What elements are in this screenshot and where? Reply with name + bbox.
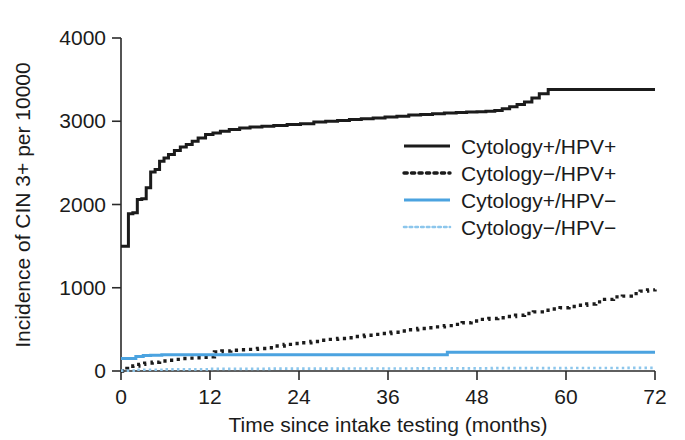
chart-legend: Cytology+/HPV+Cytology−/HPV+Cytology+/HP… — [404, 135, 616, 239]
legend-label-2: Cytology+/HPV− — [461, 189, 616, 212]
x-tick-label: 36 — [376, 385, 399, 408]
series-line-3 — [121, 368, 655, 371]
y-axis-title: Incidence of CIN 3+ per 10000 — [11, 62, 34, 347]
y-tick-label: 2000 — [59, 193, 106, 216]
x-tick-label: 72 — [643, 385, 666, 408]
y-axis-ticks: 01000200030004000 — [59, 26, 121, 382]
legend-label-0: Cytology+/HPV+ — [461, 135, 616, 158]
x-axis-ticks: 0122436486072 — [115, 371, 667, 408]
chart-canvas: 01000200030004000 0122436486072 Cytology… — [0, 0, 685, 440]
x-tick-label: 0 — [115, 385, 127, 408]
series-line-2 — [121, 352, 655, 358]
x-tick-label: 48 — [465, 385, 488, 408]
x-tick-label: 12 — [198, 385, 221, 408]
series-line-1 — [121, 289, 655, 371]
x-tick-label: 60 — [554, 385, 577, 408]
y-tick-label: 0 — [94, 359, 106, 382]
x-tick-label: 24 — [287, 385, 311, 408]
y-tick-label: 3000 — [59, 109, 106, 132]
y-tick-label: 4000 — [59, 26, 106, 49]
legend-label-3: Cytology−/HPV− — [461, 216, 616, 239]
y-tick-label: 1000 — [59, 276, 106, 299]
x-axis-title: Time since intake testing (months) — [228, 413, 547, 436]
legend-label-1: Cytology−/HPV+ — [461, 162, 616, 185]
chart-figure: 01000200030004000 0122436486072 Cytology… — [0, 0, 685, 440]
